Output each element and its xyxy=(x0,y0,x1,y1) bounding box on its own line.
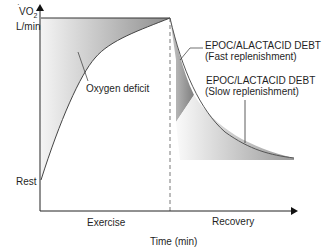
alactacid-leader xyxy=(180,48,203,60)
oxygen-deficit-label: Oxygen deficit xyxy=(86,83,149,94)
phase-recovery-label: Recovery xyxy=(212,216,254,227)
x-axis-title: Time (min) xyxy=(150,236,197,247)
phase-exercise-label: Exercise xyxy=(87,217,125,228)
alactacid-title: EPOC/ALACTACID DEBT xyxy=(205,40,321,51)
y-axis-label-sub: 2 xyxy=(34,12,38,19)
oxygen-deficit-area xyxy=(41,18,170,180)
epoc-diagram xyxy=(0,0,325,251)
x-axis-arrow-icon xyxy=(291,207,298,215)
vo2-dot-icon: · xyxy=(17,0,20,10)
rest-label: Rest xyxy=(16,176,37,187)
lactacid-subtitle: (Slow replenishment) xyxy=(205,86,299,97)
y-axis-label-main: VO xyxy=(19,6,33,17)
y-axis-unit: L/min xyxy=(16,21,40,32)
alactacid-subtitle: (Fast replenishment) xyxy=(205,51,297,62)
slow-replenishment-area xyxy=(176,95,294,160)
lactacid-title: EPOC/LACTACID DEBT xyxy=(206,75,315,86)
